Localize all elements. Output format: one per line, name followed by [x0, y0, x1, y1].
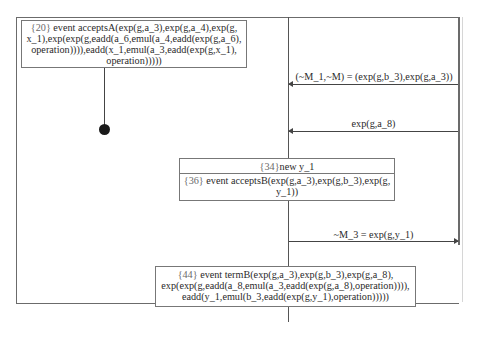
new-var-text: new y_1: [280, 161, 315, 172]
message-label: exp(g,a_8): [289, 118, 458, 129]
event-box-acceptsA: {20} event acceptsA(exp(g,a_3),exp(g,a_4…: [21, 20, 247, 68]
event-box-acceptsB: {34}new y_1 {36} event acceptsB(exp(g,a_…: [179, 158, 395, 201]
step-label: {34}: [260, 161, 280, 172]
event-text: event acceptsA(exp(g,a_3),exp(g,a_4),exp…: [53, 22, 237, 33]
step-label: {44}: [178, 269, 198, 280]
event-text-line: y_1)): [276, 186, 298, 197]
event-text-line: operation))))): [106, 55, 161, 66]
message-label: ~M_3 = exp(g,y_1): [289, 229, 458, 240]
message-arrow: [289, 131, 458, 132]
event-text: event acceptsB(exp(g,a_3),exp(g,b_3),exp…: [206, 175, 390, 186]
lifeline-right: [458, 17, 460, 245]
message-label: (~M_1,~M) = (exp(g,b_3),exp(g,a_3)): [290, 71, 458, 82]
process-stem: [104, 68, 105, 126]
frame-right-edge: [462, 17, 463, 302]
termination-dot-icon: [99, 124, 110, 135]
message-arrow: [289, 84, 458, 85]
event-box-termB: {44} event termB(exp(g,a_3),exp(g,b_3),e…: [155, 266, 416, 307]
step-label: {20}: [31, 22, 51, 33]
event-text: event termB(exp(g,a_3),exp(g,b_3),exp(g,…: [200, 269, 393, 280]
event-text-line: operation)))),eadd(x_1,emul(a_3,eadd(exp…: [31, 44, 237, 55]
arrow-left-icon: [288, 128, 293, 134]
event-text-line: eadd(y_1,emul(b_3,eadd(exp(g,y_1),operat…: [182, 291, 389, 302]
message-arrow: [289, 241, 458, 242]
event-text-line: exp(exp(g,eadd(a_8,emul(a_3,eadd(exp(g,a…: [161, 280, 409, 291]
step-label: {36}: [184, 175, 204, 186]
arrow-right-icon: [454, 238, 459, 244]
arrow-left-icon: [288, 81, 293, 87]
event-text-line: x_1),exp(exp(g,eadd(a_6,emul(a_4,eadd(ex…: [27, 33, 242, 44]
